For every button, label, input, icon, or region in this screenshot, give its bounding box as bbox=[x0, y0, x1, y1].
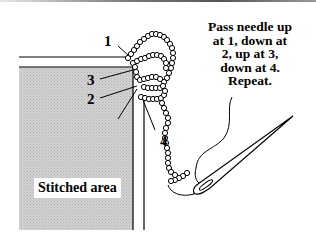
instruction-line: Pass needle up bbox=[190, 20, 310, 34]
label-point-1: 1 bbox=[104, 34, 112, 49]
instruction-line: at 1, down at bbox=[190, 34, 310, 48]
label-point-4: 4 bbox=[160, 134, 168, 149]
instructions-text: Pass needle up at 1, down at 2, up at 3,… bbox=[190, 20, 310, 88]
label-point-2: 2 bbox=[87, 92, 95, 107]
bead-strand bbox=[125, 31, 189, 183]
instruction-line: Repeat. bbox=[190, 74, 310, 88]
stitched-area-label: Stitched area bbox=[34, 178, 121, 198]
needle bbox=[194, 116, 293, 194]
instruction-line: down at 4. bbox=[190, 61, 310, 75]
instruction-line: 2, up at 3, bbox=[190, 47, 310, 61]
stitched-area-fill bbox=[19, 67, 133, 230]
label-point-3: 3 bbox=[87, 73, 95, 88]
